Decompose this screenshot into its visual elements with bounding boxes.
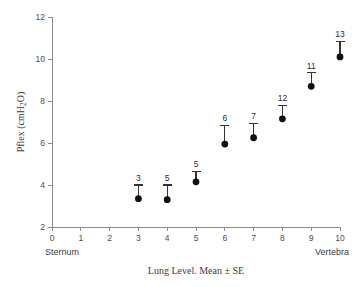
- data-point: 12: [278, 93, 288, 122]
- x-tick-label: 8: [280, 233, 285, 243]
- data-point: 5: [192, 159, 201, 185]
- point-sample-size-label: 6: [222, 113, 227, 123]
- point-marker: [164, 196, 171, 203]
- y-axis-ticks: 24681012: [36, 12, 52, 232]
- data-point: 3: [134, 173, 143, 202]
- point-marker: [221, 141, 228, 148]
- x-tick-label: 0: [50, 233, 55, 243]
- x-tick-label: 7: [251, 233, 256, 243]
- x-tick-label: 3: [136, 233, 141, 243]
- data-point: 13: [335, 29, 345, 60]
- x-axis-caption: Lung Level. Mean ± SE: [148, 265, 244, 276]
- axes: [52, 17, 340, 227]
- y-tick-label: 6: [40, 138, 45, 148]
- point-sample-size-label: 3: [136, 173, 141, 183]
- point-marker: [250, 134, 257, 141]
- data-point: 5: [163, 173, 172, 203]
- x-tick-label: 5: [194, 233, 199, 243]
- y-tick-label: 10: [36, 54, 46, 64]
- x-tick-label: 9: [309, 233, 314, 243]
- x-tick-label: 4: [165, 233, 170, 243]
- chart-figure: 24681012 012345678910 35567121113 Pflex …: [0, 0, 352, 287]
- point-sample-size-label: 5: [194, 159, 199, 169]
- point-marker: [135, 195, 142, 202]
- point-marker: [308, 83, 315, 90]
- data-series: 35567121113: [134, 29, 345, 203]
- data-point: 7: [249, 111, 258, 141]
- y-tick-label: 12: [36, 12, 46, 22]
- data-point: 11: [307, 61, 316, 90]
- point-marker: [193, 178, 200, 185]
- x-tick-label: 10: [335, 233, 345, 243]
- y-tick-label: 4: [40, 180, 45, 190]
- point-sample-size-label: 12: [278, 93, 288, 103]
- point-marker: [337, 54, 344, 61]
- data-point: 6: [220, 113, 229, 147]
- x-tick-label: 1: [78, 233, 83, 243]
- point-sample-size-label: 7: [251, 111, 256, 121]
- y-tick-label: 2: [40, 222, 45, 232]
- point-marker: [279, 115, 286, 122]
- y-axis-title: Pflex (cmH2O): [15, 92, 28, 153]
- x-axis-start-annotation: Sternum: [45, 247, 79, 257]
- y-tick-label: 8: [40, 96, 45, 106]
- x-axis-end-annotation: Vertebra: [315, 247, 349, 257]
- x-tick-label: 6: [222, 233, 227, 243]
- x-tick-label: 2: [107, 233, 112, 243]
- point-sample-size-label: 13: [335, 29, 345, 39]
- point-sample-size-label: 5: [165, 173, 170, 183]
- x-axis-ticks: 012345678910: [50, 227, 345, 243]
- point-sample-size-label: 11: [307, 61, 316, 71]
- scatter-plot: 24681012 012345678910 35567121113 Pflex …: [0, 0, 352, 287]
- chart-labels: Pflex (cmH2O) Lung Level. Mean ± SE Ster…: [15, 92, 349, 276]
